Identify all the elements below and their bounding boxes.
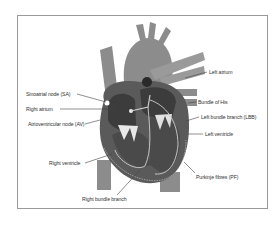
label-sa-node: Sinoatrial node (SA) bbox=[26, 91, 70, 97]
label-bundle-of-his: Bundle of His bbox=[198, 99, 228, 105]
aortic-valve bbox=[142, 77, 152, 87]
label-right-atrium: Right atrium bbox=[26, 106, 53, 112]
label-left-ventricle: Left ventricle bbox=[205, 131, 233, 137]
sa-node bbox=[105, 101, 110, 106]
label-purkinje-fibres: Purkinje fibres (PF) bbox=[196, 174, 238, 180]
inferior-vena-cava bbox=[97, 160, 111, 190]
left-carotid-artery bbox=[148, 22, 156, 40]
label-right-bundle-branch: Right bundle branch bbox=[82, 196, 127, 202]
label-av-node: Atrioventricular node (AV) bbox=[28, 121, 84, 127]
brachiocephalic-artery bbox=[136, 24, 146, 40]
left-subclavian-artery bbox=[158, 27, 171, 45]
label-right-ventricle: Right ventricle bbox=[49, 160, 80, 166]
label-left-bundle-branch: Left bundle branch (LBB) bbox=[201, 114, 256, 120]
label-left-atrium: Left atrium bbox=[209, 69, 232, 75]
